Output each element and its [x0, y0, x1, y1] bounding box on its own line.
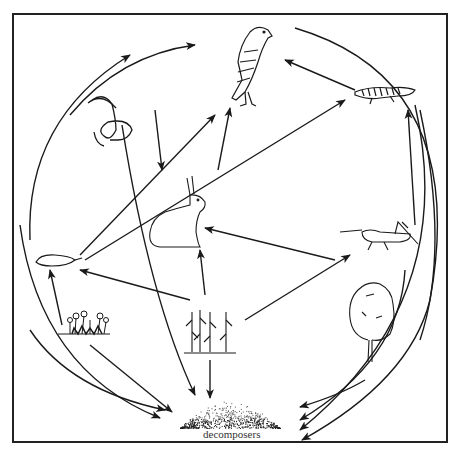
arrow-wildflowers-to-mouse — [50, 270, 62, 325]
arrow-corn-to-mouse — [80, 270, 190, 300]
arrow-mouse-to-snake — [80, 115, 215, 255]
arrow-grasshopper-to-lizard — [408, 110, 415, 225]
snake-icon — [88, 97, 132, 146]
arrow-snake-to-hawk-outer — [70, 45, 195, 115]
arrow-lizard-to-hawk — [285, 60, 355, 90]
corn-plants-icon — [184, 310, 236, 353]
arrow-hawk-to-decomposers — [295, 28, 437, 440]
arrow-corn-to-rabbit — [200, 250, 205, 295]
arrow-rabbit-to-hawk — [218, 108, 230, 170]
arrow-mouse-to-lizard — [85, 100, 345, 260]
mouse-icon — [36, 255, 82, 266]
grasshopper-icon — [340, 222, 418, 250]
arrow-wildflowers-to-decomposers-2 — [90, 345, 172, 412]
arrow-mouse-to-hawk-arc — [30, 55, 130, 240]
decomposers-label: decomposers — [203, 428, 260, 440]
rabbit-icon — [150, 176, 205, 247]
arrow-tree-to-decomposers — [300, 380, 365, 407]
arrow-wildflowers-to-decomposers — [30, 330, 165, 410]
arrow-snake-to-rabbit — [155, 110, 162, 170]
arrow-snake-to-decomposers — [122, 125, 195, 395]
lizard-icon — [355, 87, 415, 104]
arrow-corn-to-grasshopper — [245, 255, 350, 320]
arrow-grasshopper-to-rabbit — [205, 228, 335, 260]
wildflowers-icon — [58, 311, 110, 334]
decomposers-pile-icon — [180, 402, 281, 429]
tree-icon — [350, 283, 394, 362]
hawk-icon — [232, 27, 272, 106]
food-web-diagram — [0, 0, 460, 462]
